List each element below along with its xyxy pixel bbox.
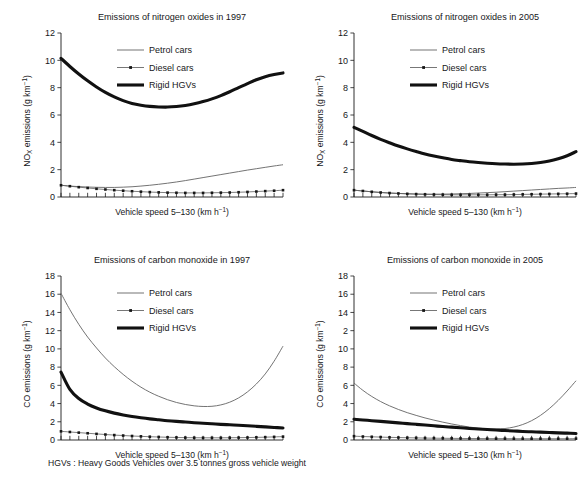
y-tick-label: 8 xyxy=(50,83,55,93)
series-marker-diesel xyxy=(69,185,72,188)
series-marker-diesel xyxy=(175,191,178,194)
series-marker-diesel xyxy=(220,191,223,194)
series-marker-diesel xyxy=(468,194,471,197)
series-marker-diesel xyxy=(86,187,89,190)
series-marker-diesel xyxy=(282,435,285,438)
series-marker-diesel xyxy=(264,436,267,439)
legend-label-petrol: Petrol cars xyxy=(149,288,193,298)
series-marker-diesel xyxy=(95,188,98,191)
series-marker-diesel xyxy=(433,193,436,196)
axis-lines xyxy=(354,276,576,440)
legend-label-hgv: Rigid HGVs xyxy=(149,323,197,333)
legend-label-petrol: Petrol cars xyxy=(442,288,486,298)
series-marker-diesel xyxy=(388,192,391,195)
series-marker-diesel xyxy=(149,191,152,194)
legend-label-petrol: Petrol cars xyxy=(442,45,486,55)
series-marker-diesel xyxy=(166,436,169,439)
series-marker-diesel xyxy=(450,194,453,197)
series-marker-diesel xyxy=(424,193,427,196)
series-marker-diesel xyxy=(521,437,524,440)
panel-co-2005: Emissions of carbon monoxide in 20050246… xyxy=(314,255,577,460)
y-tick-label: 2 xyxy=(50,165,55,175)
series-marker-diesel xyxy=(566,437,569,440)
series-marker-diesel xyxy=(397,192,400,195)
series-marker-diesel xyxy=(539,437,542,440)
series-marker-diesel xyxy=(495,437,498,440)
series-marker-diesel xyxy=(60,430,63,433)
series-marker-diesel xyxy=(255,190,258,193)
y-tick-label: 8 xyxy=(343,83,348,93)
series-marker-diesel xyxy=(353,435,356,438)
series-marker-diesel xyxy=(424,437,427,440)
series-marker-diesel xyxy=(548,193,551,196)
legend-label-petrol: Petrol cars xyxy=(149,45,193,55)
series-marker-diesel xyxy=(131,190,134,193)
legend-label-diesel: Diesel cars xyxy=(442,63,487,73)
y-tick-label: 18 xyxy=(45,271,55,281)
series-marker-diesel xyxy=(370,436,373,439)
panel-title: Emissions of nitrogen oxides in 1997 xyxy=(98,12,246,22)
emissions-figure: Emissions of nitrogen oxides in 19970246… xyxy=(0,0,586,486)
series-marker-diesel xyxy=(184,436,187,439)
series-marker-diesel xyxy=(184,192,187,195)
legend-label-diesel: Diesel cars xyxy=(149,306,194,316)
figure-canvas: Emissions of nitrogen oxides in 19970246… xyxy=(0,0,586,486)
series-marker-diesel xyxy=(415,437,418,440)
series-marker-diesel xyxy=(273,436,276,439)
series-marker-diesel xyxy=(370,191,373,194)
series-marker-diesel xyxy=(362,435,365,438)
series-marker-diesel xyxy=(557,437,560,440)
series-marker-diesel xyxy=(86,432,89,435)
y-tick-label: 4 xyxy=(343,138,348,148)
series-marker-diesel xyxy=(131,435,134,438)
series-marker-diesel xyxy=(353,189,356,192)
series-marker-diesel xyxy=(113,434,116,437)
series-marker-diesel xyxy=(530,193,533,196)
y-tick-label: 0 xyxy=(50,435,55,445)
series-marker-diesel xyxy=(557,193,560,196)
y-tick-label: 14 xyxy=(338,308,348,318)
figure-footnote: HGVs : Heavy Goods Vehicles over 3.5 ton… xyxy=(48,458,307,468)
series-marker-diesel xyxy=(468,437,471,440)
series-marker-diesel xyxy=(459,437,462,440)
series-marker-diesel xyxy=(397,436,400,439)
x-axis-title: Vehicle speed 5–130 (km h−1) xyxy=(115,206,229,217)
series-marker-diesel xyxy=(477,437,480,440)
series-marker-diesel xyxy=(388,436,391,439)
legend-marker-diesel xyxy=(129,309,132,312)
series-marker-diesel xyxy=(459,194,462,197)
series-marker-diesel xyxy=(433,437,436,440)
series-marker-diesel xyxy=(157,191,160,194)
series-marker-diesel xyxy=(548,437,551,440)
y-axis-title: NOX emissions (g km−1) xyxy=(21,75,33,167)
axis-lines xyxy=(61,33,283,197)
series-marker-diesel xyxy=(113,189,116,192)
series-marker-diesel xyxy=(450,437,453,440)
y-tick-label: 6 xyxy=(343,381,348,391)
series-marker-diesel xyxy=(504,193,507,196)
series-marker-diesel xyxy=(406,193,409,196)
series-line-hgv xyxy=(354,127,576,164)
axis-lines xyxy=(61,276,283,440)
series-marker-diesel xyxy=(237,191,240,194)
legend-marker-diesel xyxy=(129,66,132,69)
x-axis-title: Vehicle speed 5–130 (km h−1) xyxy=(408,449,522,460)
series-marker-diesel xyxy=(521,193,524,196)
y-tick-label: 14 xyxy=(45,308,55,318)
panel-co-1997: Emissions of carbon monoxide in 19970246… xyxy=(21,255,284,460)
y-tick-label: 2 xyxy=(343,326,348,336)
series-marker-diesel xyxy=(539,193,542,196)
series-marker-diesel xyxy=(513,437,516,440)
series-marker-diesel xyxy=(246,191,249,194)
series-marker-diesel xyxy=(575,437,578,440)
series-line-hgv xyxy=(61,372,283,428)
y-tick-label: 4 xyxy=(343,399,348,409)
y-tick-label: 4 xyxy=(50,138,55,148)
series-marker-diesel xyxy=(220,437,223,440)
y-tick-label: 2 xyxy=(343,417,348,427)
y-axis-title: CO emissions (g km−1) xyxy=(314,320,325,408)
series-marker-diesel xyxy=(406,436,409,439)
y-axis-title: NOX emissions (g km−1) xyxy=(314,75,326,167)
series-marker-diesel xyxy=(211,191,214,194)
y-tick-label: 2 xyxy=(50,417,55,427)
